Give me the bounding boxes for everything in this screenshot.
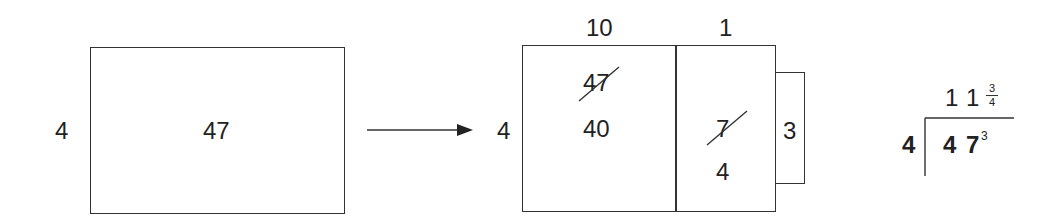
fraction-numerator: 3 <box>986 83 998 94</box>
dividend-digit: 7 <box>966 133 979 157</box>
quotient-digit: 1 <box>966 86 979 110</box>
strike-through-mark <box>703 107 751 149</box>
quotient-fraction: 3 4 <box>986 83 998 108</box>
fraction-denominator: 4 <box>986 97 998 108</box>
quotient-digit: 1 <box>945 86 958 110</box>
dividend-digit: 4 <box>943 133 956 157</box>
left-area-label: 47 <box>203 119 230 143</box>
column-header-tens: 10 <box>586 16 613 40</box>
column-header-ones: 1 <box>719 16 732 40</box>
left-side-label: 4 <box>55 119 68 143</box>
tens-value: 40 <box>583 117 610 141</box>
ones-value: 4 <box>716 160 729 184</box>
remainder-superscript: 3 <box>981 130 988 142</box>
area-side-label: 4 <box>497 119 510 143</box>
strike-through-mark <box>575 63 625 105</box>
right-arrow-icon <box>365 120 475 140</box>
remainder-label: 3 <box>783 119 796 143</box>
divisor: 4 <box>902 133 915 157</box>
